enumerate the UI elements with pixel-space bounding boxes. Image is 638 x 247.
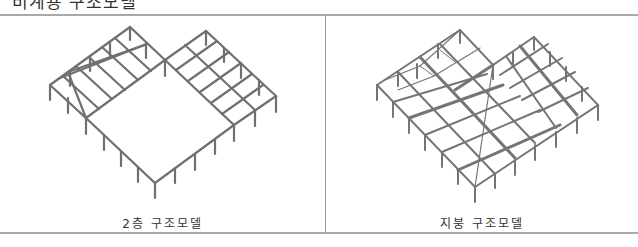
figure-cell-2nd-floor: 2층 구조모델	[0, 16, 325, 232]
table-bottom-border	[0, 232, 638, 234]
figure-caption-roof: 지붕 구조모델	[326, 214, 638, 231]
structural-model-roof-drawing	[326, 16, 638, 216]
figure-cell-roof: 지붕 구조모델	[326, 16, 638, 232]
structural-model-2nd-floor-drawing	[0, 16, 325, 216]
cropped-heading: 비계용 구조모델	[12, 0, 137, 13]
figure-caption-2nd-floor: 2층 구조모델	[0, 214, 325, 231]
